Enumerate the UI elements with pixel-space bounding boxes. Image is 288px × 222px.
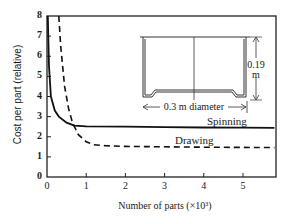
y-tick-label: 5 [30,70,42,80]
x-tick-label: 4 [197,181,211,191]
spinning-label: Spinning [207,115,247,127]
y-tick-label: 7 [30,30,42,40]
y-tick-label: 6 [30,50,42,60]
height-dimension-unit: m [247,70,265,80]
x-tick-label: 0 [40,181,54,191]
y-tick-label: 8 [30,10,42,20]
drawing-label: Drawing [175,134,214,146]
y-tick-label: 3 [30,111,42,121]
y-tick-label: 1 [30,151,42,161]
x-axis-label: Number of parts (×10³) [90,200,240,211]
diameter-dimension: 0.3 m diameter [160,102,228,112]
y-tick-label: 0 [30,171,42,181]
y-tick-label: 2 [30,131,42,141]
x-tick-label: 2 [118,181,132,191]
x-tick-label: 5 [236,181,250,191]
x-tick-label: 3 [158,181,172,191]
y-tick-label: 4 [30,91,42,101]
x-tick-label: 1 [79,181,93,191]
y-axis-label: Cost per part (relative) [12,40,23,150]
cost-chart: Cost per part (relative) Number of parts… [0,0,288,222]
